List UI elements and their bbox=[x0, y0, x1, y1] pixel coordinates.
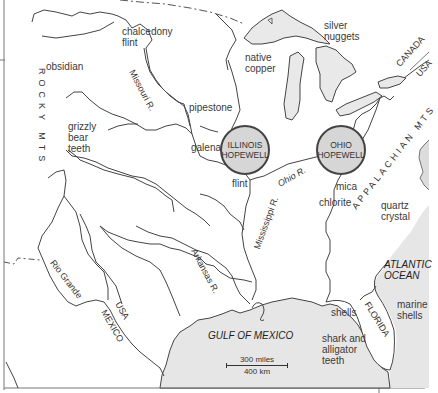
label-flint: flint bbox=[232, 178, 248, 189]
ohio-hopewell-line2: HOPEWELL bbox=[317, 150, 364, 160]
label-silver-nuggets: silver nuggets bbox=[324, 20, 360, 42]
river-upper-left bbox=[48, 170, 66, 196]
river-grizzly bbox=[68, 150, 174, 212]
scale-miles: 300 miles bbox=[226, 355, 288, 364]
illinois-hopewell-line1: ILLINOIS bbox=[221, 140, 268, 150]
label-pipestone: pipestone bbox=[189, 102, 232, 113]
label-grizzly-bear-teeth: grizzly bear teeth bbox=[68, 121, 96, 154]
lake-huron bbox=[316, 46, 356, 102]
river-kansas bbox=[66, 150, 210, 226]
atlantic-coast-northeast bbox=[419, 140, 429, 190]
scale-bar: 300 miles 400 km bbox=[226, 355, 288, 376]
label-rocky-mts: ROCKY MTS bbox=[36, 68, 47, 166]
river-platte-branch bbox=[108, 124, 138, 130]
label-quartz-crystal: quartz crystal bbox=[381, 200, 410, 222]
label-shark-alligator-teeth: shark and alligator teeth bbox=[322, 333, 366, 366]
river-ouachita bbox=[200, 194, 244, 230]
label-obsidian: obsidian bbox=[46, 61, 83, 72]
label-gulf-of-mexico: GULF OF MEXICO bbox=[208, 330, 293, 341]
lake-ontario bbox=[378, 76, 406, 88]
river-galena bbox=[200, 126, 218, 132]
label-native-copper: native copper bbox=[245, 52, 276, 74]
scale-km: 400 km bbox=[226, 367, 288, 376]
river-tributary-1 bbox=[42, 22, 114, 38]
river-red bbox=[100, 226, 252, 282]
illinois-hopewell-line2: HOPEWELL bbox=[221, 150, 268, 160]
river-lake-connect bbox=[216, 14, 236, 70]
ohio-hopewell-line1: OHIO bbox=[317, 140, 364, 150]
lake-michigan bbox=[284, 52, 304, 120]
label-galena: galena bbox=[191, 142, 221, 153]
illinois-hopewell-circle: ILLINOIS HOPEWELL bbox=[220, 125, 270, 175]
label-shells: shells bbox=[331, 307, 357, 318]
canada-usa-border bbox=[120, 0, 244, 24]
label-mica: mica bbox=[336, 181, 357, 192]
label-chlorite: chlorite bbox=[319, 197, 351, 208]
river-left-edge bbox=[6, 362, 18, 388]
label-chalcedony-flint: chalcedony flint bbox=[122, 26, 173, 48]
ohio-hopewell-circle: OHIO HOPEWELL bbox=[316, 125, 366, 175]
lake-superior bbox=[244, 10, 330, 44]
usa-mexico-border-dash bbox=[4, 258, 40, 264]
label-marine-shells: marine shells bbox=[397, 299, 428, 321]
river-rio-grande bbox=[38, 196, 164, 376]
river-brazos bbox=[100, 226, 180, 316]
label-atlantic-ocean: ATLANTIC OCEAN bbox=[384, 259, 432, 281]
